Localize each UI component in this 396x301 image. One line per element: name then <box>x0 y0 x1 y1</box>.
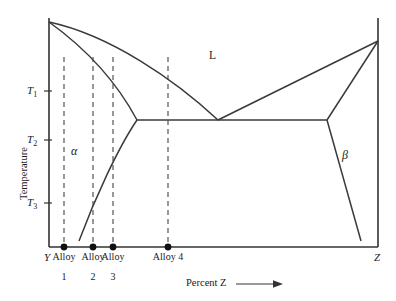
x-axis-title: Percent Z <box>186 278 227 289</box>
alloy-dot-4 <box>165 244 172 251</box>
alloy-dot-1 <box>61 244 68 251</box>
y-tick-label-t3: T3 <box>27 197 37 211</box>
alloy-dot-2 <box>90 244 97 251</box>
alloy-label-4: Alloy 4 <box>142 252 194 262</box>
alloy-label-3: Alloy 3 <box>95 252 131 282</box>
alloy-dot-3 <box>110 244 117 251</box>
alloy-composition-lines <box>64 57 168 247</box>
phase-diagram-figure: Temperature T1 T2 T3 L α β Y Z Alloy 1 A… <box>0 0 396 301</box>
beta-region-label: β <box>342 149 348 161</box>
right-endpoint-label: Z <box>374 252 380 263</box>
liquid-region-label: L <box>209 50 216 62</box>
y-tick-label-t1: T1 <box>27 85 37 99</box>
right-liquidus-curve <box>218 41 378 120</box>
left-liquidus-curve <box>49 22 218 120</box>
y-axis-title: Temperature <box>18 147 29 200</box>
alpha-region-label: α <box>71 145 77 157</box>
x-axis-arrow <box>236 280 283 288</box>
y-tick-label-t2: T2 <box>27 134 37 148</box>
beta-solvus-curve <box>327 120 361 241</box>
alpha-solvus-curve <box>79 120 137 241</box>
